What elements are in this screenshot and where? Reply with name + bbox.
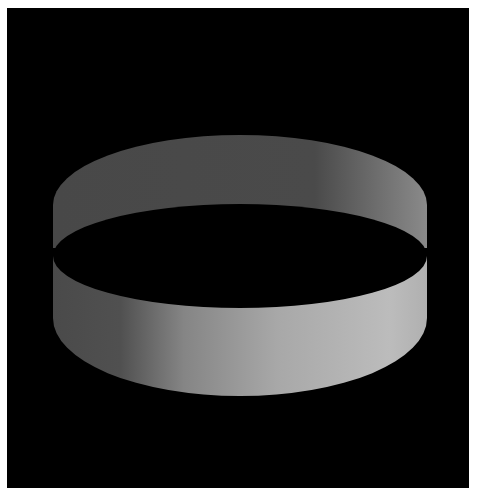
band-inner-opening: [53, 204, 427, 308]
render-canvas: [7, 8, 469, 488]
cylinder-band-render: [7, 8, 469, 488]
